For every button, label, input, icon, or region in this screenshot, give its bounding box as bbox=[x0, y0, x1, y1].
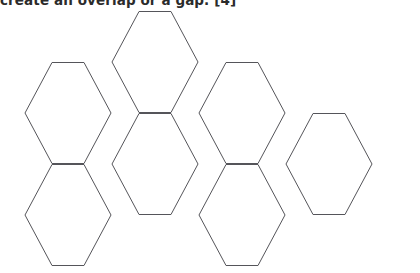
hexagon-group bbox=[25, 12, 372, 266]
hex-mid-left bbox=[25, 63, 111, 164]
hex-bottom-center bbox=[199, 165, 285, 266]
hex-bottom-left bbox=[25, 165, 111, 266]
hex-mid-right bbox=[199, 63, 285, 164]
scanned-page: create an overlap or a gap. [4] bbox=[0, 0, 420, 273]
hex-mid-center bbox=[112, 114, 198, 215]
hex-far-right bbox=[286, 114, 372, 215]
hexagonal-tessellation-figure bbox=[0, 0, 420, 273]
hex-top-center bbox=[112, 12, 198, 113]
